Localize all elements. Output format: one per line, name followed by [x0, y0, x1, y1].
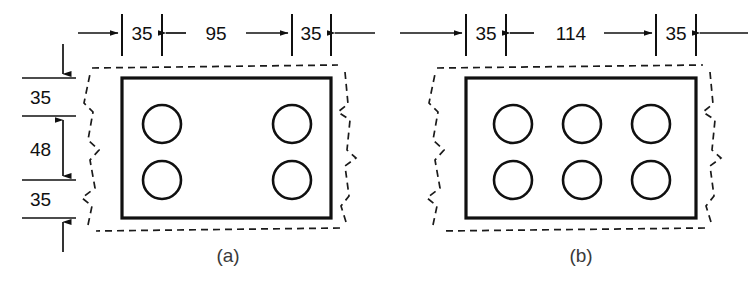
dimension-label-b-h2: 114	[556, 23, 587, 44]
hole	[494, 105, 532, 143]
hole	[494, 161, 532, 199]
dimension-label-a-v2: 48	[30, 139, 51, 160]
hole	[273, 105, 311, 143]
hole	[143, 105, 181, 143]
hole-pattern-figure: 35 95 35 35 48 35 (a)	[0, 0, 753, 285]
dimension-label-a-v3: 35	[30, 189, 51, 210]
hole	[563, 161, 601, 199]
dimension-label-a-h2: 95	[205, 23, 226, 44]
hole	[632, 105, 670, 143]
hole	[632, 161, 670, 199]
dimension-label-b-h1: 35	[475, 23, 496, 44]
caption-a: (a)	[216, 245, 239, 266]
dimension-label-b-h3: 35	[665, 23, 686, 44]
hole	[143, 161, 181, 199]
caption-b: (b)	[569, 245, 592, 266]
dimension-label-a-v1: 35	[30, 87, 51, 108]
hole	[273, 161, 311, 199]
hole	[563, 105, 601, 143]
dimension-label-a-h1: 35	[131, 23, 152, 44]
dimension-label-a-h3: 35	[300, 23, 321, 44]
